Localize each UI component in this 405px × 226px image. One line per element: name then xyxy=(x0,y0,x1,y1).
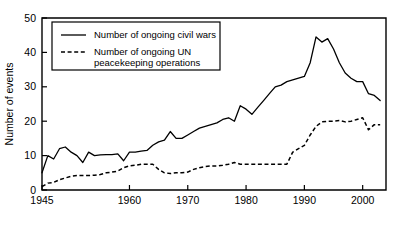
x-tick-label: 1990 xyxy=(293,194,317,206)
chart-figure: 01020304050194519601970198019902000 Numb… xyxy=(0,0,405,226)
x-tick-label: 1970 xyxy=(176,194,200,206)
y-axis-label: Number of events xyxy=(3,63,15,146)
y-tick-label: 50 xyxy=(24,12,36,24)
legend-label-un-peacekeeping: Number of ongoing UN xyxy=(94,46,191,57)
y-tick-label: 30 xyxy=(24,80,36,92)
y-tick-label: 40 xyxy=(24,46,36,58)
y-tick-label: 20 xyxy=(24,115,36,127)
x-tick-label: 1945 xyxy=(30,194,54,206)
line-chart: 01020304050194519601970198019902000 Numb… xyxy=(0,0,405,226)
y-axis-title: Number of events xyxy=(3,63,15,146)
series-line-un-peacekeeping xyxy=(42,118,380,187)
y-tick-label: 10 xyxy=(24,149,36,161)
legend-label-civil-wars: Number of ongoing civil wars xyxy=(94,29,216,40)
x-tick-label: 2000 xyxy=(351,194,375,206)
chart-legend: Number of ongoing civil warsNumber of on… xyxy=(52,22,220,70)
legend-label-un-peacekeeping-line2: peacekeeping operations xyxy=(94,57,200,68)
x-tick-label: 1980 xyxy=(234,194,258,206)
x-tick-label: 1960 xyxy=(118,194,142,206)
